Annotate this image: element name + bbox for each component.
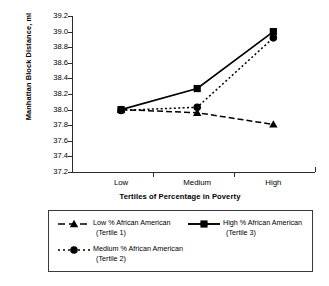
x-tick-label-medium: Medium [162, 178, 232, 187]
legend-key-square-icon [187, 219, 221, 229]
y-tick-label: 37.4 [34, 152, 68, 160]
legend-sublabel: (Tertile 2) [93, 254, 183, 264]
legend-label: Low % African American [93, 218, 171, 228]
y-tick-mark [68, 110, 72, 111]
legend-text: Medium % African American(Tertile 2) [93, 244, 183, 263]
y-axis-line [72, 16, 73, 172]
y-tick-label: 38.0 [34, 106, 68, 114]
y-tick-label: 38.6 [34, 59, 68, 67]
x-tick-mark [234, 172, 235, 177]
y-tick-label: 37.2 [34, 168, 68, 176]
legend-sublabel: (Tertile 3) [223, 228, 302, 238]
legend-marker-square [200, 220, 207, 227]
x-axis-line [72, 172, 315, 173]
x-tick-mark [153, 172, 154, 177]
y-tick-mark [68, 156, 72, 157]
y-tick-mark [68, 125, 72, 126]
legend-sublabel: (Tertile 1) [93, 228, 171, 238]
chart-figure: Manhattan Block Distance, ml 39.239.038.… [0, 0, 329, 286]
x-axis-end-cap [315, 167, 316, 172]
legend-text: Low % African American(Tertile 1) [93, 218, 171, 237]
legend-key-circle-icon [57, 245, 91, 255]
y-tick-label: 39.2 [34, 12, 68, 20]
y-tick-mark [68, 94, 72, 95]
x-tick-label-low: Low [86, 178, 156, 187]
legend-label: High % African American [223, 218, 302, 228]
y-axis-title: Manhattan Block Distance, ml [24, 0, 33, 147]
legend-text: High % African American(Tertile 3) [223, 218, 302, 237]
y-tick-mark [68, 32, 72, 33]
y-tick-label: 37.8 [34, 121, 68, 129]
y-tick-label: 39.0 [34, 28, 68, 36]
y-tick-mark [68, 16, 72, 17]
chart-legend: Low % African American(Tertile 1)High % … [48, 210, 313, 272]
y-tick-mark [68, 63, 72, 64]
legend-marker-circle [70, 246, 78, 254]
x-axis-title: Tertiles of Percentage in Poverty [40, 192, 320, 201]
plot-area [72, 16, 315, 172]
y-tick-mark [68, 141, 72, 142]
legend-label: Medium % African American [93, 244, 183, 254]
x-tick-label-high: High [238, 178, 308, 187]
y-tick-mark [68, 78, 72, 79]
y-axis-tick-labels: 39.239.038.838.638.438.238.037.837.637.4… [34, 0, 68, 186]
y-tick-mark [68, 47, 72, 48]
x-axis-end-cap [72, 167, 73, 172]
y-tick-label: 38.2 [34, 90, 68, 98]
y-tick-label: 38.4 [34, 74, 68, 82]
y-tick-mark [68, 172, 72, 173]
legend-key-triangle-icon [57, 219, 91, 229]
y-tick-label: 37.6 [34, 137, 68, 145]
y-tick-label: 38.8 [34, 43, 68, 51]
